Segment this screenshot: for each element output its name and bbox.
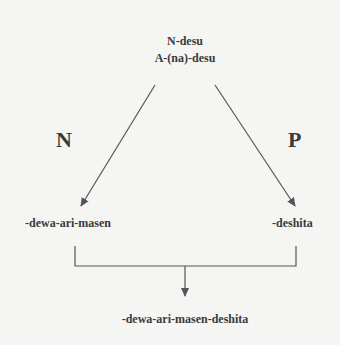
arrow-top-to-left bbox=[81, 85, 155, 206]
merge-bracket bbox=[75, 246, 296, 266]
right-edge-label: P bbox=[288, 128, 301, 152]
left-node: -dewa-ari-masen bbox=[25, 216, 111, 230]
right-node: -deshita bbox=[272, 216, 313, 230]
top-node-line2: A-(na)-desu bbox=[155, 51, 216, 65]
arrow-top-to-right bbox=[215, 85, 295, 206]
top-node-line1: N-desu bbox=[155, 34, 216, 48]
top-node: N-desu A-(na)-desu bbox=[155, 34, 216, 65]
bottom-node: -dewa-ari-masen-deshita bbox=[122, 312, 249, 326]
left-edge-label: N bbox=[56, 128, 72, 152]
